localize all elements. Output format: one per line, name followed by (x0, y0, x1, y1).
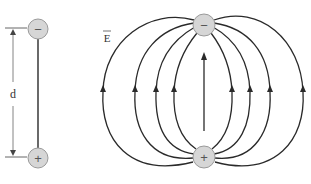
left-positive-charge: + (28, 148, 48, 168)
arrow-up-icon (247, 85, 253, 92)
arrow-up-icon (100, 85, 106, 92)
field-arrowheads (100, 52, 306, 92)
arrow-up-icon (267, 85, 273, 92)
plus-sign-icon: + (34, 151, 42, 166)
arrow-up-icon (201, 52, 207, 60)
minus-sign-icon: − (34, 22, 42, 37)
arrow-up-icon (153, 85, 159, 92)
dipole-diagram: d − + E (0, 0, 311, 184)
left-dipole: d − + (5, 19, 48, 168)
dimension-arrow-up-icon (10, 29, 16, 35)
field-label: E (103, 31, 111, 44)
plus-sign-icon: + (200, 150, 208, 165)
arrow-up-icon (132, 85, 138, 92)
field-positive-charge: + (193, 146, 215, 168)
field-line-right-4 (214, 16, 303, 166)
separation-label: d (10, 87, 16, 101)
dimension-arrow-down-icon (10, 150, 16, 156)
arrow-up-icon (229, 85, 235, 92)
minus-sign-icon: − (200, 18, 208, 33)
field-negative-charge: − (193, 14, 215, 36)
field-line-right-1 (211, 33, 232, 149)
left-negative-charge: − (28, 19, 48, 39)
field-label-text: E (104, 32, 111, 44)
field-line-left-1 (103, 17, 194, 165)
field-line-left-4 (174, 33, 197, 149)
arrow-up-icon (300, 85, 306, 92)
arrow-up-icon (171, 85, 177, 92)
field-diagram: E (100, 14, 306, 168)
